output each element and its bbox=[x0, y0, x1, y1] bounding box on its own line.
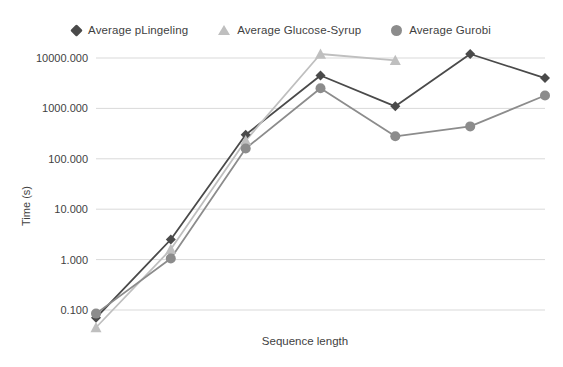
series-line bbox=[96, 54, 395, 328]
plot-svg: 10000.0001000.000100.00010.0001.0000.100… bbox=[0, 0, 563, 367]
y-tick-label: 0.100 bbox=[60, 304, 88, 316]
y-tick-label: 10.000 bbox=[54, 203, 88, 215]
y-axis-title: Time (s) bbox=[20, 186, 32, 226]
chart-container: Average pLingeling Average Glucose-Syrup… bbox=[0, 0, 563, 367]
data-point-circle[interactable] bbox=[166, 254, 176, 264]
data-point-circle[interactable] bbox=[91, 309, 101, 319]
series-line bbox=[96, 54, 545, 318]
y-tick-label: 100.000 bbox=[48, 153, 88, 165]
data-point-circle[interactable] bbox=[316, 83, 326, 93]
data-point-diamond[interactable] bbox=[540, 73, 550, 83]
data-point-circle[interactable] bbox=[540, 91, 550, 101]
data-point-circle[interactable] bbox=[465, 121, 475, 131]
data-point-circle[interactable] bbox=[390, 131, 400, 141]
y-tick-label: 1000.000 bbox=[42, 102, 88, 114]
gridlines bbox=[96, 58, 545, 310]
data-point-circle[interactable] bbox=[241, 144, 251, 154]
y-tick-label: 10000.000 bbox=[36, 52, 88, 64]
x-axis-title: Sequence length bbox=[262, 335, 348, 347]
series-line bbox=[96, 88, 545, 313]
plot-area: 10000.0001000.000100.00010.0001.0000.100… bbox=[0, 0, 563, 367]
data-point-triangle[interactable] bbox=[165, 244, 176, 254]
y-tick-label: 1.000 bbox=[60, 254, 88, 266]
y-axis-ticks: 10000.0001000.000100.00010.0001.0000.100 bbox=[36, 52, 88, 316]
data-series bbox=[91, 49, 551, 333]
